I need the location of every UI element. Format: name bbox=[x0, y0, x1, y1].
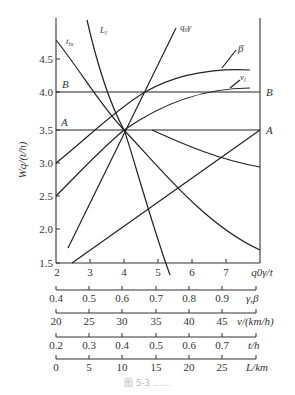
svg-text:15: 15 bbox=[151, 361, 163, 373]
curve-Ll-right bbox=[152, 130, 260, 167]
line-A-oblique bbox=[72, 130, 260, 263]
svg-text:0.7: 0.7 bbox=[215, 339, 229, 351]
svg-text:45: 45 bbox=[217, 315, 229, 327]
svg-text:0.6: 0.6 bbox=[115, 292, 129, 304]
svg-text:10: 10 bbox=[117, 361, 129, 373]
curve-q0gamma bbox=[68, 28, 176, 248]
curve-tlu bbox=[56, 40, 260, 250]
svg-text:0.7: 0.7 bbox=[149, 292, 163, 304]
svg-text:0.9: 0.9 bbox=[215, 292, 229, 304]
svg-text:γ,β: γ,β bbox=[246, 292, 259, 304]
svg-text:t/h: t/h bbox=[248, 339, 260, 351]
svg-text:0.6: 0.6 bbox=[182, 339, 196, 351]
svg-text:35: 35 bbox=[151, 315, 163, 327]
x-ticks bbox=[90, 259, 226, 263]
svg-text:0.4: 0.4 bbox=[115, 339, 129, 351]
svg-text:6: 6 bbox=[189, 266, 195, 278]
svg-text:4.0: 4.0 bbox=[39, 86, 53, 98]
svg-text:2: 2 bbox=[54, 266, 60, 278]
curve-Ll-label: Ll bbox=[99, 25, 107, 36]
svg-text:25: 25 bbox=[84, 315, 96, 327]
curve-tlu-label: tlu bbox=[66, 36, 73, 47]
x-axis-title: q0γ/t bbox=[251, 266, 273, 278]
svg-text:3: 3 bbox=[87, 266, 93, 278]
svg-text:4.5: 4.5 bbox=[39, 53, 53, 65]
svg-text:0.8: 0.8 bbox=[182, 292, 196, 304]
svg-text:L/km: L/km bbox=[245, 361, 268, 373]
svg-text:40: 40 bbox=[184, 315, 196, 327]
label-A-left: A bbox=[60, 116, 68, 128]
scale-gamma-beta: 0.4 0.5 0.6 0.7 0.8 0.9 γ,β bbox=[49, 286, 259, 304]
nomogram-chart: 1.5 2.0 2.5 3.0 3.5 4.0 4.5 Wq/(t/h) 2 3… bbox=[0, 0, 295, 395]
label-B-right: B bbox=[266, 86, 273, 98]
curve-beta bbox=[56, 70, 250, 163]
svg-text:v/(km/h): v/(km/h) bbox=[237, 315, 274, 328]
svg-text:1.5: 1.5 bbox=[39, 257, 53, 269]
x-tick-labels: 2 3 4 5 6 7 q0γ/t bbox=[54, 266, 273, 278]
svg-text:30: 30 bbox=[117, 315, 129, 327]
svg-text:2.0: 2.0 bbox=[39, 223, 53, 235]
scale-vl: 20 25 30 35 40 45 v/(km/h) bbox=[51, 309, 274, 328]
scale-Ll: 0 5 10 15 20 25 L/km bbox=[53, 355, 268, 373]
svg-text:20: 20 bbox=[184, 361, 196, 373]
y-axis-title: Wq/(t/h) bbox=[16, 141, 29, 178]
scale-tlu: 0.2 0.3 0.4 0.5 0.6 0.7 t/h bbox=[49, 333, 260, 351]
label-B-left: B bbox=[62, 78, 69, 90]
svg-text:0.5: 0.5 bbox=[149, 339, 163, 351]
curve-beta-label: β bbox=[237, 42, 244, 54]
leader-beta bbox=[222, 50, 236, 68]
svg-text:0: 0 bbox=[53, 361, 59, 373]
svg-text:4: 4 bbox=[121, 266, 127, 278]
curve-q0gamma-label: q0γ bbox=[180, 22, 192, 33]
svg-text:3.0: 3.0 bbox=[39, 157, 53, 169]
curve-vl bbox=[56, 88, 250, 196]
svg-text:25: 25 bbox=[217, 361, 229, 373]
leader-vl bbox=[230, 80, 240, 88]
svg-text:5: 5 bbox=[86, 361, 92, 373]
svg-text:7: 7 bbox=[223, 266, 229, 278]
label-A-right: A bbox=[265, 124, 273, 136]
curve-vl-label: vl bbox=[240, 72, 246, 83]
svg-text:0.4: 0.4 bbox=[49, 292, 63, 304]
svg-text:3.5: 3.5 bbox=[39, 124, 53, 136]
y-tick-labels: 1.5 2.0 2.5 3.0 3.5 4.0 4.5 bbox=[39, 53, 53, 269]
svg-text:0.2: 0.2 bbox=[49, 339, 63, 351]
figure-caption: 图 5-3 …… bbox=[0, 376, 295, 389]
svg-text:0.3: 0.3 bbox=[82, 339, 96, 351]
svg-text:0.5: 0.5 bbox=[82, 292, 96, 304]
svg-text:20: 20 bbox=[51, 315, 63, 327]
curve-Ll bbox=[87, 20, 170, 275]
svg-text:2.5: 2.5 bbox=[39, 190, 53, 202]
svg-text:5: 5 bbox=[155, 266, 161, 278]
